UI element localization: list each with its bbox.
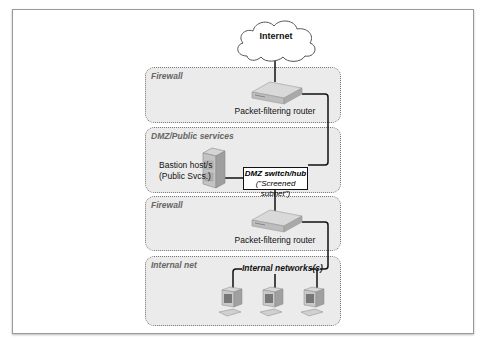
workstation-icon: [259, 286, 285, 318]
dmz-switch-hub: DMZ switch/hub ("Screened subnet"): [243, 167, 308, 190]
workstation-icon: [218, 286, 244, 318]
bastion-label-2: (Public Svcs.): [159, 171, 203, 182]
router-icon: [250, 80, 304, 106]
bastion-label-1: Bastion host/s: [159, 160, 203, 171]
workstation-icon: [300, 286, 326, 318]
router-label: Packet-filtering router: [230, 106, 320, 116]
router-icon: [250, 208, 304, 234]
internal-network-label: Internal networks(s): [242, 263, 310, 273]
cloud-label: Internet: [233, 31, 319, 41]
hub-sublabel: ("Screened subnet"): [244, 179, 307, 199]
router-label: Packet-filtering router: [230, 235, 320, 245]
hub-label: DMZ switch/hub: [244, 169, 307, 179]
